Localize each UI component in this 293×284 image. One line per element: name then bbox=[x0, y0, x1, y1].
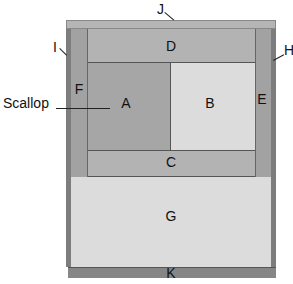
piece-h bbox=[271, 29, 276, 267]
label-e: E bbox=[257, 92, 266, 106]
label-c: C bbox=[166, 155, 176, 169]
label-k: K bbox=[166, 266, 175, 280]
label-i: I bbox=[53, 40, 57, 54]
label-scallop: Scallop bbox=[3, 96, 49, 110]
leader-scallop bbox=[56, 108, 110, 109]
label-g: G bbox=[166, 209, 177, 223]
label-a: A bbox=[121, 96, 130, 110]
label-d: D bbox=[166, 39, 176, 53]
label-j: J bbox=[157, 2, 164, 16]
label-b: B bbox=[205, 96, 214, 110]
piece-f bbox=[71, 29, 88, 177]
label-h: H bbox=[284, 43, 293, 57]
label-f: F bbox=[75, 82, 84, 96]
piece-j bbox=[66, 20, 276, 29]
